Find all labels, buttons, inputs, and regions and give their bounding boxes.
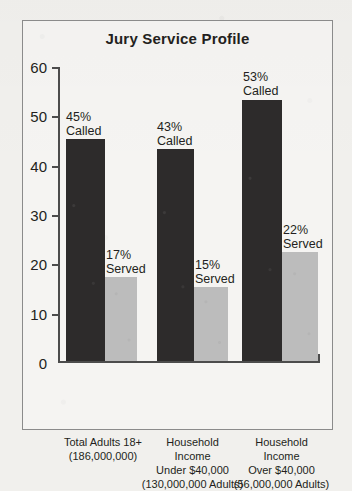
annotation-kind: Served bbox=[106, 263, 146, 277]
annotation-percent: 45% bbox=[66, 111, 101, 125]
category-label-line: Household bbox=[224, 435, 339, 449]
y-tick-label: 0 bbox=[39, 355, 47, 372]
annotation-kind: Served bbox=[283, 238, 323, 252]
annotation-served-group-2: 15% Served bbox=[195, 259, 235, 286]
y-tick-mark bbox=[52, 116, 59, 118]
annotation-kind: Called bbox=[157, 135, 192, 149]
annotation-percent: 22% bbox=[283, 224, 323, 238]
annotation-kind: Called bbox=[243, 85, 278, 99]
y-tick-mark bbox=[52, 314, 59, 316]
x-axis-right-cap bbox=[318, 354, 320, 363]
y-tick-mark bbox=[52, 166, 59, 168]
bar-served-group-1 bbox=[105, 277, 137, 361]
y-tick-label: 10 bbox=[30, 305, 47, 322]
annotation-served-group-3: 22% Served bbox=[283, 224, 323, 251]
annotation-percent: 17% bbox=[106, 249, 146, 263]
annotation-kind: Served bbox=[195, 273, 235, 287]
y-tick-label: 40 bbox=[30, 157, 47, 174]
x-axis-line bbox=[58, 361, 320, 363]
annotation-percent: 43% bbox=[157, 121, 192, 135]
category-label-line: Over $40,000 bbox=[224, 463, 339, 477]
x-category-label-group-3: Household Income Over $40,000 (56,000,00… bbox=[224, 435, 339, 491]
page-title: Jury Service Profile bbox=[22, 30, 333, 47]
annotation-percent: 53% bbox=[243, 71, 278, 85]
y-tick-mark bbox=[52, 215, 59, 217]
x-axis-left-cap bbox=[58, 354, 60, 363]
bar-called-group-3 bbox=[242, 100, 282, 361]
category-label-line: (56,000,000 Adults) bbox=[224, 477, 339, 491]
annotation-called-group-3: 53% Called bbox=[243, 71, 278, 98]
annotation-served-group-1: 17% Served bbox=[106, 249, 146, 276]
bar-called-group-1 bbox=[66, 139, 105, 361]
y-tick-mark bbox=[52, 264, 59, 266]
annotation-called-group-1: 45% Called bbox=[66, 111, 101, 138]
category-label-line: Income bbox=[224, 449, 339, 463]
y-tick-label: 60 bbox=[30, 59, 47, 76]
y-tick-label: 30 bbox=[30, 207, 47, 224]
y-tick-mark bbox=[52, 67, 59, 69]
annotation-kind: Called bbox=[66, 125, 101, 139]
plot-area: 60 50 40 30 20 10 0 45% Called 17% Serve… bbox=[58, 67, 320, 363]
annotation-percent: 15% bbox=[195, 259, 235, 273]
bar-served-group-2 bbox=[194, 287, 228, 361]
y-tick-label: 20 bbox=[30, 256, 47, 273]
bar-served-group-3 bbox=[282, 252, 318, 361]
annotation-called-group-2: 43% Called bbox=[157, 121, 192, 148]
bar-called-group-2 bbox=[157, 149, 194, 361]
y-tick-label: 50 bbox=[30, 108, 47, 125]
